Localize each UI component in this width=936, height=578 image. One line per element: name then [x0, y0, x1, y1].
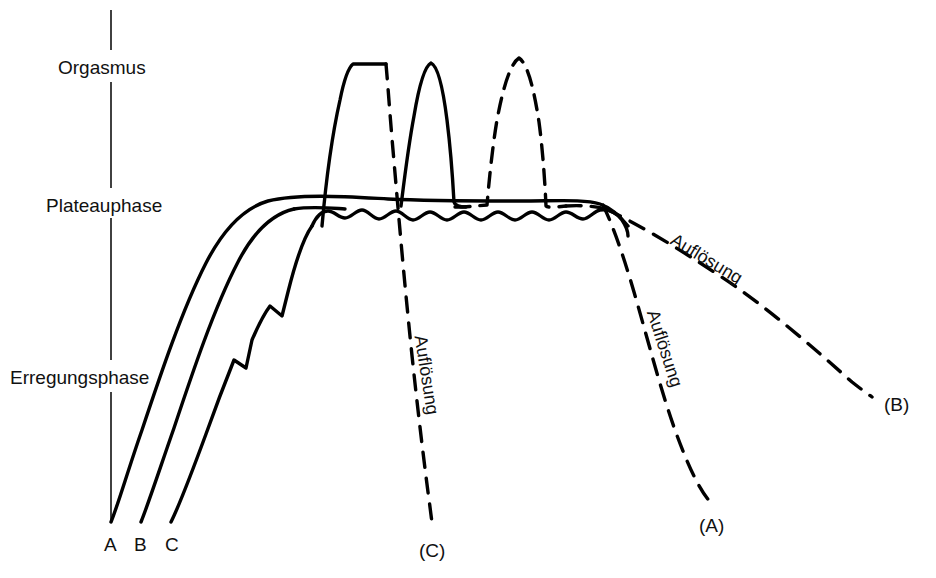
- baseline-label-a: A: [104, 534, 117, 556]
- curve-b-resolution: [606, 209, 872, 397]
- axis-label-erregungsphase: Erregungsphase: [10, 367, 149, 389]
- curve-c-resolution: [386, 64, 432, 522]
- endpoint-label-a: (A): [699, 515, 724, 537]
- response-cycle-chart: [0, 0, 936, 578]
- figure-canvas: Orgasmus Plateauphase Erregungsphase A B…: [0, 0, 936, 578]
- endpoint-label-b: (B): [884, 394, 909, 416]
- endpoint-label-c: (C): [419, 540, 445, 562]
- axis-label-plateauphase: Plateauphase: [46, 195, 162, 217]
- curve-a-rise-plateau: [111, 196, 628, 522]
- curve-c-plateau-wave: [312, 210, 628, 236]
- curve-a-orgasm-peak: [401, 63, 466, 207]
- curve-c-orgasm-peak: [322, 64, 386, 226]
- baseline-label-b: B: [134, 534, 147, 556]
- baseline-label-c: C: [165, 534, 179, 556]
- curve-b-orgasm-approach: [455, 58, 566, 207]
- axis-label-orgasmus: Orgasmus: [58, 57, 146, 79]
- curve-b-plateau: [294, 207, 345, 209]
